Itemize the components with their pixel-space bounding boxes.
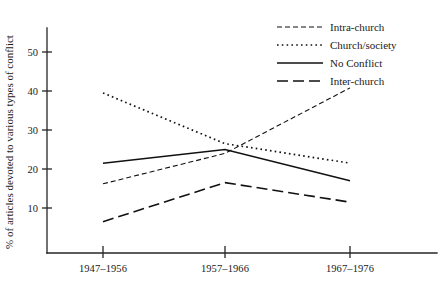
y-tick-label-30: 30 [28,125,39,136]
legend-label-church-society: Church/society [330,39,397,51]
legend-label-no-conflict: No Conflict [330,57,382,69]
series-line-church-society [103,93,350,163]
x-tick-label-1: 1957–1966 [201,263,249,274]
y-axis-title-group: % of articles devoted to various types o… [3,35,15,249]
data-series-group [103,88,350,222]
y-tick-label-20: 20 [28,164,39,175]
x-tick-label-0: 1947–1956 [79,263,127,274]
x-axis-ticks [103,246,350,258]
line-chart: 1020304050 1947–19561957–19661967–1976 I… [0,0,442,291]
legend-label-inter-church: Inter-church [330,75,385,87]
x-tick-label-2: 1967–1976 [326,263,374,274]
y-axis-title: % of articles devoted to various types o… [3,35,15,249]
y-tick-label-40: 40 [28,86,39,97]
series-line-no-conflict [103,150,350,181]
y-tick-label-10: 10 [28,203,39,214]
y-axis-tick-labels: 1020304050 [28,47,39,214]
series-line-intra-church [103,88,350,184]
chart-legend: Intra-churchChurch/societyNo ConflictInt… [277,21,397,87]
x-axis-tick-labels: 1947–19561957–19661967–1976 [79,263,374,274]
legend-label-intra-church: Intra-church [330,21,385,33]
y-tick-label-50: 50 [28,47,39,58]
series-line-inter-church [103,183,350,222]
chart-canvas: 1020304050 1947–19561957–19661967–1976 I… [0,0,442,291]
